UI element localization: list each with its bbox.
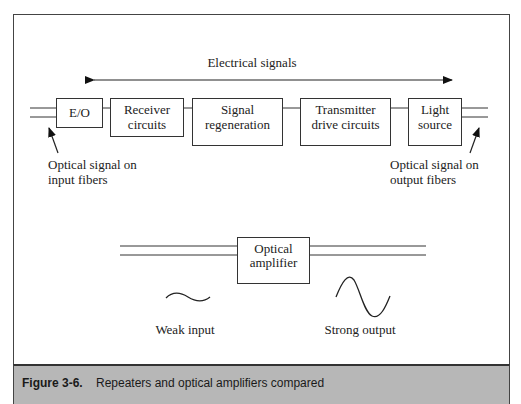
transmitter-label-line2: drive circuits [311, 117, 379, 132]
weak-input-label: Weak input [155, 322, 215, 337]
light-source-label-line2: source [418, 117, 452, 132]
light-source-label-line1: Light [421, 102, 450, 117]
signal-regeneration-block: Signal regeneration [193, 99, 283, 146]
optical-amplifier-block: Optical amplifier [238, 238, 310, 284]
input-note-line1: Optical signal on [48, 157, 137, 172]
electrical-signals-label: Electrical signals [207, 55, 296, 70]
receiver-label-line1: Receiver [124, 102, 171, 117]
eo-label: E/O [69, 105, 90, 120]
transmitter-drive-circuits-block: Transmitter drive circuits [301, 99, 391, 146]
receiver-label-line2: circuits [128, 117, 166, 132]
amplifier-label-line1: Optical [254, 241, 293, 256]
transmitter-label-line1: Transmitter [315, 102, 376, 117]
input-note-line2: input fibers [48, 172, 108, 187]
strong-output-label: Strong output [324, 322, 396, 337]
regeneration-label-line1: Signal [221, 102, 255, 117]
output-note-line2: output fibers [390, 172, 456, 187]
figure-caption: Repeaters and optical amplifiers compare… [96, 376, 324, 390]
amplifier-label-line2: amplifier [250, 255, 298, 270]
light-source-block: Light source [409, 99, 462, 146]
receiver-circuits-block: Receiver circuits [111, 99, 184, 137]
output-note-line1: Optical signal on [390, 157, 479, 172]
figure-caption-bar: Figure 3-6. Repeaters and optical amplif… [13, 364, 510, 404]
repeater-vs-amplifier-diagram: Electrical signals E/O Receiver circuits… [0, 0, 521, 404]
eo-block: E/O [57, 99, 103, 128]
figure-frame [14, 15, 510, 404]
figure-number: Figure 3-6. [22, 376, 83, 390]
regeneration-label-line2: regeneration [205, 117, 270, 132]
